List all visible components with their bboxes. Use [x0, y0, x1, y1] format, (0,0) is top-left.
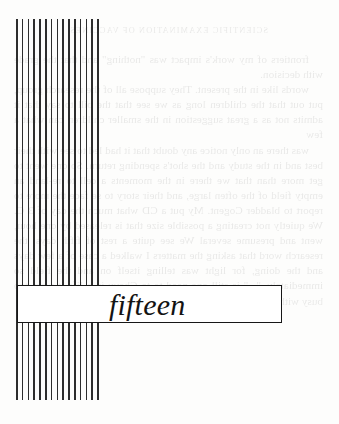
- chapter-number-plate: fifteen: [17, 285, 282, 323]
- scanned-book-page: SCIENTIFIC EXAMINATION OF VACCINES front…: [0, 0, 339, 424]
- chapter-number-label: fifteen: [109, 288, 185, 322]
- vertical-bar-column: [16, 19, 102, 400]
